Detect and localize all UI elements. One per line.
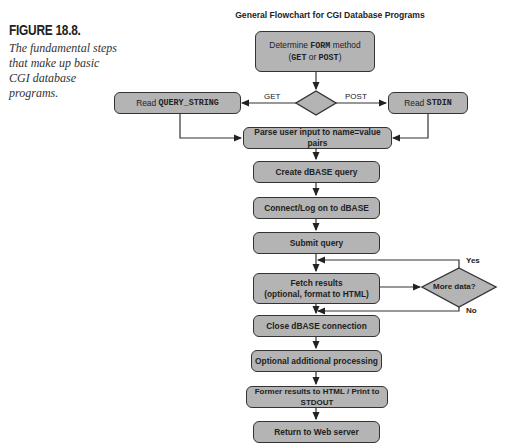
format-results-box: Former results to HTML / Print to STDOUT [246,386,388,408]
determine-form-method-box: Determine FORM method (GET or POST) [255,31,375,72]
return-to-server-box: Return to Web server [253,421,380,443]
read-query-string-box: Read QUERY_STRING [114,92,241,114]
parse-input-box: Parse user input to name=value pairs [243,127,392,149]
submit-query-box: Submit query [253,232,380,254]
yes-edge-label: Yes [466,256,480,265]
create-query-box: Create dBASE query [253,161,380,183]
optional-processing-box: Optional additional processing [251,350,382,372]
get-edge-label: GET [264,92,280,101]
connect-box: Connect/Log on to dBASE [253,197,380,219]
no-edge-label: No [466,306,477,315]
fetch-results-box: Fetch results (optional, format to HTML) [253,273,380,304]
more-data-label: More data? [433,282,476,291]
method-decision-diamond [296,91,336,115]
post-edge-label: POST [345,92,367,101]
read-stdin-box: Read STDIN [388,92,468,114]
close-connection-box: Close dBASE connection [253,315,380,337]
